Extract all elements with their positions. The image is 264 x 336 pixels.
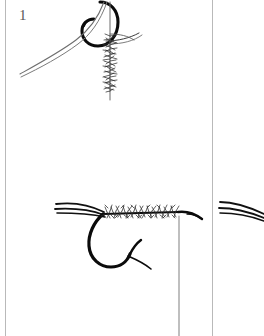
dubbing-noodle xyxy=(103,34,117,92)
hook-eye xyxy=(178,212,202,219)
tail-fiber-bottom xyxy=(220,213,264,221)
hook-point xyxy=(130,240,141,254)
panel-3-illustration xyxy=(213,0,264,168)
hook-bend xyxy=(89,214,130,267)
panel-4-illustration xyxy=(213,168,264,336)
panel-2-illustration xyxy=(6,168,212,336)
panel-4: 4 xyxy=(213,168,264,336)
panel-1-illustration xyxy=(6,0,212,168)
panel-1: 1 xyxy=(6,0,212,168)
panel-3: 3 xyxy=(213,0,264,168)
trailing-thread-upper xyxy=(20,2,104,74)
hook-bend-curve xyxy=(82,2,118,46)
book-page: 1 xyxy=(0,0,264,336)
tail-fiber-top xyxy=(56,203,104,212)
panel-2: 2 xyxy=(6,168,212,336)
hook-barb xyxy=(128,256,151,269)
step-number-1: 1 xyxy=(19,8,27,23)
